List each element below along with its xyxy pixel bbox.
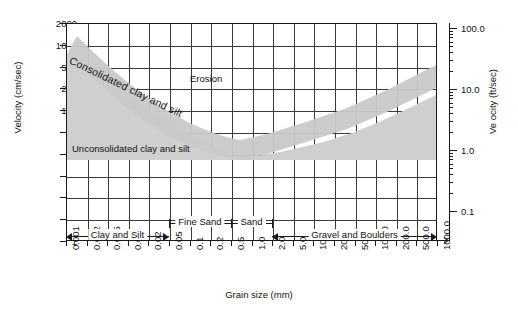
y2-tick-label: 1.0 <box>461 145 474 156</box>
unconsolidated-annotation: Unconsolidated clay and silt <box>72 143 190 154</box>
category-label: Gravel and Boulders <box>308 229 401 240</box>
band-svg <box>67 24 437 241</box>
y2-tick-label: 10.0 <box>461 84 480 95</box>
y2-minor-tick <box>449 168 453 169</box>
y2-minor-tick <box>449 113 453 114</box>
y2-minor-tick <box>449 182 453 183</box>
y-axis-label: Velocity (cm/sec) <box>12 38 23 158</box>
y2-tick-label: 100.0 <box>461 23 485 34</box>
y2-minor-tick <box>449 159 453 160</box>
y2-minor-tick <box>449 132 453 133</box>
erosion-velocity-band <box>67 24 436 240</box>
category-end-cap <box>272 219 273 228</box>
y2-minor-tick <box>449 34 453 35</box>
y2-minor-tick <box>449 193 453 194</box>
chart-figure: Velocity (cm/sec) 2000100050020010050201… <box>0 0 518 318</box>
x-axis-label: Grain size (mm) <box>0 289 518 300</box>
y2-tick-mark <box>449 89 457 90</box>
y2-minor-tick <box>449 52 453 53</box>
y2-minor-tick <box>449 153 453 154</box>
y2-minor-tick <box>449 71 453 72</box>
y2-minor-tick <box>449 60 453 61</box>
y2-minor-tick <box>449 164 453 165</box>
y2-minor-tick <box>449 46 453 47</box>
y2-minor-tick <box>449 92 453 93</box>
y2-minor-tick <box>449 37 453 38</box>
category-label: Sand <box>237 216 265 227</box>
y2-tick-mark <box>449 28 457 29</box>
y2-tick-mark <box>449 211 457 212</box>
category-arrow-left-icon <box>272 233 278 241</box>
category-sand: Sand <box>0 216 518 230</box>
y2-minor-tick <box>449 174 453 175</box>
category-arrow-right-icon <box>431 233 437 241</box>
plot-area: Erosion Unconsolidated clay and silt Con… <box>66 23 437 241</box>
y2-minor-tick <box>449 121 453 122</box>
category-gravel-and-boulders: Gravel and Boulders <box>0 229 518 243</box>
y2-axis-label: Ve ocity (ft/sec) <box>487 42 498 162</box>
y2-minor-tick <box>449 95 453 96</box>
y2-minor-tick <box>449 31 453 32</box>
y2-minor-tick <box>449 156 453 157</box>
y2-minor-tick <box>449 107 453 108</box>
category-end-cap <box>231 219 232 228</box>
erosion-annotation: Erosion <box>190 73 222 84</box>
y2-minor-tick <box>449 103 453 104</box>
y2-minor-tick <box>449 42 453 43</box>
y2-minor-tick <box>449 98 453 99</box>
y2-tick-label: 0.1 <box>461 206 474 217</box>
y2-tick-mark <box>449 150 457 151</box>
